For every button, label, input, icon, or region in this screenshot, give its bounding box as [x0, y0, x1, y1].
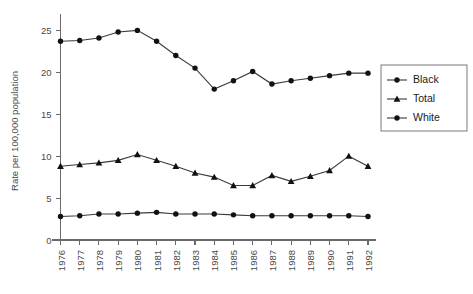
data-point-marker — [231, 212, 236, 217]
y-axis-ticks: 0510152025 — [41, 25, 61, 246]
data-point-marker — [212, 86, 217, 91]
line-chart: 0510152025 19761977197819791980198119821… — [0, 0, 473, 294]
data-point-marker — [231, 78, 236, 83]
data-point-marker — [212, 211, 217, 216]
x-tick-label: 1992 — [363, 250, 374, 271]
data-point-marker — [346, 70, 351, 75]
data-point-marker — [326, 167, 333, 173]
y-tick-label: 15 — [41, 109, 52, 120]
y-tick-label: 20 — [41, 67, 52, 78]
data-point-marker — [115, 211, 120, 216]
data-point-marker — [327, 73, 332, 78]
data-point-marker — [77, 38, 82, 43]
data-point-marker — [365, 70, 370, 75]
data-point-marker — [346, 213, 351, 218]
data-point-marker — [394, 115, 399, 120]
data-point-marker — [288, 78, 293, 83]
chart-legend: BlackTotalWhite — [381, 65, 467, 131]
y-tick-label: 0 — [46, 235, 51, 246]
data-point-marker — [250, 213, 255, 218]
data-point-marker — [115, 29, 120, 34]
x-tick-label: 1988 — [286, 250, 297, 271]
x-tick-label: 1986 — [248, 250, 259, 271]
x-tick-label: 1981 — [152, 250, 163, 271]
x-axis-ticks: 1976197719781979198019811982198319841985… — [56, 240, 375, 271]
y-tick-label: 5 — [46, 193, 51, 204]
data-point-marker — [154, 39, 159, 44]
x-tick-label: 1989 — [305, 250, 316, 271]
y-tick-label: 10 — [41, 151, 52, 162]
data-point-marker — [394, 77, 399, 82]
x-tick-label: 1991 — [344, 250, 355, 271]
x-tick-label: 1990 — [325, 250, 336, 271]
series-path — [61, 154, 369, 185]
data-point-marker — [77, 213, 82, 218]
data-point-marker — [308, 75, 313, 80]
x-tick-label: 1979 — [113, 250, 124, 271]
x-tick-label: 1985 — [228, 250, 239, 271]
x-tick-label: 1976 — [56, 250, 67, 271]
x-tick-label: 1987 — [267, 250, 278, 271]
legend-label: White — [413, 111, 440, 123]
data-point-marker — [365, 163, 372, 169]
x-tick-label: 1982 — [171, 250, 182, 271]
data-point-marker — [135, 28, 140, 33]
data-point-marker — [345, 153, 352, 159]
data-point-marker — [250, 69, 255, 74]
chart-svg: 0510152025 19761977197819791980198119821… — [0, 0, 473, 294]
data-point-marker — [96, 211, 101, 216]
x-tick-label: 1977 — [75, 250, 86, 271]
data-point-marker — [269, 81, 274, 86]
x-tick-label: 1984 — [209, 250, 220, 271]
y-tick-label: 25 — [41, 25, 52, 36]
data-point-marker — [154, 210, 159, 215]
data-point-marker — [192, 65, 197, 70]
data-point-marker — [192, 211, 197, 216]
data-point-marker — [288, 213, 293, 218]
legend-label: Black — [413, 73, 439, 85]
data-point-marker — [173, 211, 178, 216]
data-point-marker — [308, 213, 313, 218]
data-point-marker — [96, 35, 101, 40]
data-point-marker — [269, 213, 274, 218]
series-total — [57, 151, 371, 188]
data-point-marker — [173, 53, 178, 58]
series-white — [58, 210, 371, 220]
x-tick-label: 1978 — [94, 250, 105, 271]
x-tick-label: 1980 — [132, 250, 143, 271]
data-point-marker — [269, 172, 276, 178]
series-path — [61, 30, 369, 89]
y-axis-title: Rate per 100,000 population — [9, 71, 20, 191]
data-point-marker — [58, 214, 63, 219]
x-tick-label: 1983 — [190, 250, 201, 271]
data-point-marker — [58, 39, 63, 44]
data-point-marker — [134, 151, 141, 157]
data-point-marker — [135, 210, 140, 215]
data-point-marker — [327, 213, 332, 218]
legend-label: Total — [413, 92, 435, 104]
data-point-marker — [365, 214, 370, 219]
series-layer — [57, 28, 371, 220]
series-black — [58, 28, 371, 92]
